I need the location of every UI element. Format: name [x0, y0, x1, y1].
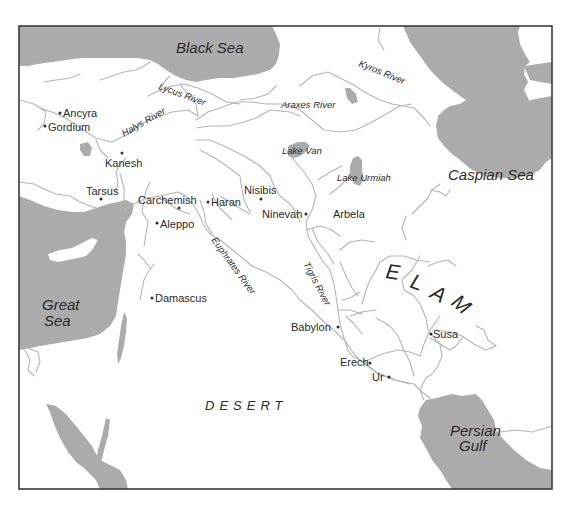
city-arbela: Arbela — [333, 208, 366, 220]
kyros-river-label: Kyros River — [357, 58, 407, 87]
city-kanesh: Kanesh — [105, 152, 142, 170]
svg-text:E: E — [384, 259, 402, 284]
city-erech: Erech — [340, 356, 372, 368]
svg-text:L: L — [408, 269, 427, 295]
lake-tuz-shape — [80, 142, 92, 156]
city-ur: Ur — [372, 371, 391, 383]
tigris-river-label: Tigris River — [301, 260, 334, 308]
svg-text:M: M — [447, 289, 476, 318]
city-ancyra: Ancyra — [59, 107, 99, 119]
great-sea-shape — [19, 196, 134, 350]
svg-text:Carchemish: Carchemish — [138, 194, 197, 206]
svg-text:Gordium: Gordium — [48, 121, 90, 133]
desert-label: DESERT — [205, 398, 288, 413]
caspian-sea-shape — [403, 26, 552, 178]
halys-river-label: Halys River — [120, 105, 168, 139]
svg-text:Damascus: Damascus — [155, 292, 207, 304]
gulf-of-suez-shape — [46, 404, 128, 489]
svg-text:Erech: Erech — [340, 356, 369, 368]
lake-sevan-shape — [345, 88, 358, 104]
lake-urmiah-label: Lake Urmiah — [337, 172, 391, 183]
city-ninevah: Ninevah — [262, 208, 308, 220]
city-susa: Susa — [430, 328, 459, 340]
svg-text:A: A — [425, 279, 450, 307]
great-sea-label-line1: Great — [42, 296, 80, 313]
elam-label: E L A M — [384, 259, 476, 318]
araxes-river-label: Araxes River — [280, 99, 336, 110]
persian-gulf-label-line2: Gulf — [459, 437, 488, 454]
city-babylon: Babylon — [291, 321, 340, 333]
caspian-sea-label: Caspian Sea — [448, 166, 534, 183]
city-haran: Haran — [207, 196, 241, 208]
great-sea-label-line2: Sea — [44, 312, 71, 329]
svg-text:Tarsus: Tarsus — [86, 185, 119, 197]
city-tarsus: Tarsus — [86, 185, 119, 201]
svg-text:Susa: Susa — [433, 328, 459, 340]
black-sea-label: Black Sea — [176, 39, 244, 56]
ancient-near-east-map: Black Sea Caspian Sea Great Sea Persian … — [0, 0, 575, 518]
svg-text:Aleppo: Aleppo — [160, 218, 194, 230]
svg-text:Haran: Haran — [211, 196, 241, 208]
city-carchemish: Carchemish — [138, 194, 197, 210]
city-nisibis: Nisibis — [244, 184, 277, 201]
svg-text:Nisibis: Nisibis — [244, 184, 277, 196]
svg-text:Ancyra: Ancyra — [63, 107, 98, 119]
gulf-of-aqaba-shape — [96, 418, 110, 462]
svg-text:Babylon: Babylon — [291, 321, 331, 333]
city-damascus: Damascus — [151, 292, 208, 304]
svg-text:Ninevah: Ninevah — [262, 208, 302, 220]
caspian-east-shore — [524, 62, 552, 84]
dead-sea-shape — [117, 312, 127, 364]
city-aleppo: Aleppo — [156, 218, 195, 230]
svg-text:Arbela: Arbela — [333, 208, 366, 220]
lake-van-label: Lake Van — [282, 145, 322, 156]
city-gordium: Gordium — [44, 121, 91, 133]
svg-text:Kanesh: Kanesh — [105, 157, 142, 169]
svg-text:Ur: Ur — [372, 371, 384, 383]
